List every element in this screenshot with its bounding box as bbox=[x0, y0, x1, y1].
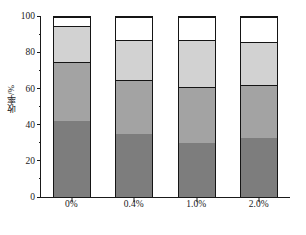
bar-column-2[interactable] bbox=[178, 16, 216, 197]
bar-column-0[interactable] bbox=[53, 16, 91, 197]
bar-segment-1-3[interactable] bbox=[116, 17, 152, 40]
bar-segment-0-3[interactable] bbox=[54, 17, 90, 26]
y-tick-label-60: 60 bbox=[26, 84, 36, 94]
bar-group bbox=[41, 16, 290, 197]
y-tick-label-40: 40 bbox=[26, 120, 36, 130]
bar-stack-2[interactable] bbox=[178, 16, 216, 197]
y-tick-label-80: 80 bbox=[26, 48, 36, 58]
bar-segment-3-0[interactable] bbox=[241, 138, 277, 197]
y-tick-label-20: 20 bbox=[26, 157, 36, 167]
bar-segment-2-1[interactable] bbox=[179, 87, 215, 143]
bar-segment-0-0[interactable] bbox=[54, 121, 90, 197]
bar-segment-0-1[interactable] bbox=[54, 62, 90, 121]
stacked-bar-chart: 收率/% 100 80 60 40 bbox=[0, 0, 306, 235]
y-tick-label-0: 0 bbox=[30, 193, 35, 203]
x-tick-label-1: 0.4% bbox=[115, 200, 153, 210]
x-axis-labels: 0% 0.4% 1.0% 2.0% bbox=[40, 200, 290, 220]
bar-stack-1[interactable] bbox=[115, 16, 153, 197]
x-tick-label-0: 0% bbox=[52, 200, 90, 210]
bar-column-1[interactable] bbox=[115, 16, 153, 197]
bar-segment-1-1[interactable] bbox=[116, 80, 152, 134]
bar-column-3[interactable] bbox=[240, 16, 278, 197]
y-axis-title: 收率/% bbox=[2, 0, 20, 198]
y-tick-label-100: 100 bbox=[21, 12, 35, 22]
bar-segment-1-2[interactable] bbox=[116, 40, 152, 80]
bar-segment-0-2[interactable] bbox=[54, 26, 90, 62]
x-tick-label-2: 1.0% bbox=[177, 200, 215, 210]
bar-segment-2-2[interactable] bbox=[179, 40, 215, 87]
bar-segment-3-3[interactable] bbox=[241, 17, 277, 42]
bar-segment-2-3[interactable] bbox=[179, 17, 215, 40]
plot-area: 100 80 60 40 20 bbox=[40, 16, 290, 198]
bar-segment-3-1[interactable] bbox=[241, 85, 277, 137]
bar-segment-3-2[interactable] bbox=[241, 42, 277, 85]
bar-stack-0[interactable] bbox=[53, 16, 91, 197]
x-tick-label-3: 2.0% bbox=[240, 200, 278, 210]
bar-segment-1-0[interactable] bbox=[116, 134, 152, 197]
bar-stack-3[interactable] bbox=[240, 16, 278, 197]
bar-segment-2-0[interactable] bbox=[179, 143, 215, 197]
y-axis-title-text: 收率/% bbox=[7, 85, 16, 113]
